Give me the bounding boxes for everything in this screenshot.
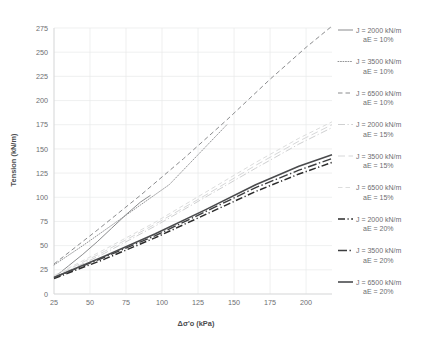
- legend-label-line1: J = 2000 kN/m: [356, 121, 401, 128]
- legend-label-line2: aE = 10%: [363, 68, 394, 75]
- y-tick-label: 50: [40, 241, 48, 250]
- legend-label-line2: aE = 20%: [363, 288, 394, 295]
- x-tick-label: 175: [264, 298, 276, 307]
- legend-label-line2: aE = 15%: [363, 162, 394, 169]
- x-tick-label: 100: [156, 298, 168, 307]
- x-tick-label: 125: [192, 298, 204, 307]
- legend-label-line2: aE = 15%: [363, 194, 394, 201]
- legend-label-line2: aE = 10%: [363, 36, 394, 43]
- y-tick-label: 250: [36, 48, 48, 57]
- x-tick-label: 75: [122, 298, 130, 307]
- x-axis-title: Δσ'o (kPa): [178, 319, 215, 328]
- legend-label-line1: J = 3500 kN/m: [356, 153, 401, 160]
- legend-label-line2: aE = 10%: [363, 99, 394, 106]
- legend-label-line2: aE = 20%: [363, 257, 394, 264]
- legend-label-line1: J = 2000 kN/m: [356, 27, 401, 34]
- y-tick-label: 200: [36, 96, 48, 105]
- y-tick-label: 100: [36, 193, 48, 202]
- legend-label-line2: aE = 20%: [363, 225, 394, 232]
- y-tick-label: 225: [36, 72, 48, 81]
- y-tick-label: 0: [44, 290, 48, 299]
- legend-label-line1: J = 6500 kN/m: [356, 90, 401, 97]
- y-tick-label: 175: [36, 120, 48, 129]
- x-tick-label: 50: [86, 298, 94, 307]
- y-tick-label: 25: [40, 265, 48, 274]
- legend-label-line1: J = 2000 kN/m: [356, 216, 401, 223]
- y-tick-label: 75: [40, 217, 48, 226]
- legend-label-line1: J = 3500 kN/m: [356, 247, 401, 254]
- legend-label-line1: J = 6500 kN/m: [356, 184, 401, 191]
- legend-label-line1: J = 6500 kN/m: [356, 279, 401, 286]
- x-tick-label: 200: [300, 298, 312, 307]
- y-tick-label: 125: [36, 169, 48, 178]
- x-tick-label: 150: [228, 298, 240, 307]
- legend-label-line1: J = 3500 kN/m: [356, 58, 401, 65]
- chart-container: 0255075100125150175200225250275 25507510…: [0, 0, 433, 342]
- y-tick-label: 150: [36, 145, 48, 154]
- y-axis-title: Tension (kN/m): [9, 133, 18, 186]
- legend-label-line2: aE = 15%: [363, 131, 394, 138]
- y-tick-label: 275: [36, 24, 48, 33]
- line-chart: 0255075100125150175200225250275 25507510…: [0, 0, 433, 342]
- x-tick-label: 25: [50, 298, 58, 307]
